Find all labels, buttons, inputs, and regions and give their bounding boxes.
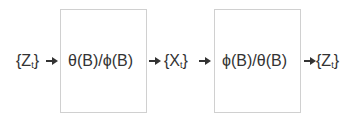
- arrow-right-icon: [199, 56, 211, 66]
- symbol: Z: [321, 52, 331, 69]
- output-sequence-zt: {Zt}: [316, 51, 339, 75]
- filter-label-theta-over-phi: θ(B)/ϕ(B): [68, 51, 133, 71]
- symbol: X: [169, 52, 180, 69]
- brace-close: }: [183, 52, 188, 69]
- middle-sequence-xt: {Xt}: [164, 51, 188, 75]
- arrow-right-icon: [149, 56, 161, 66]
- symbol: Z: [21, 52, 31, 69]
- arrow-right-icon: [304, 56, 316, 66]
- brace-close: }: [334, 52, 339, 69]
- filter-label-phi-over-theta: ϕ(B)/θ(B): [222, 51, 287, 71]
- arrow-right-icon: [46, 56, 58, 66]
- brace-close: }: [34, 52, 39, 69]
- input-sequence-zt: {Zt}: [16, 51, 39, 75]
